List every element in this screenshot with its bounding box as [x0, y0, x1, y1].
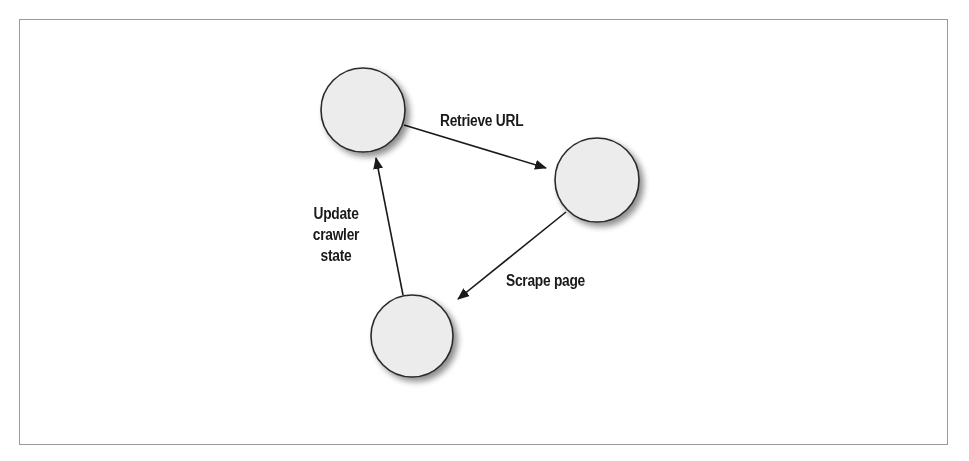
edge-update-state [376, 158, 403, 295]
edge-label-line: state [302, 245, 371, 266]
node-2 [555, 138, 639, 222]
diagram-canvas [0, 0, 969, 461]
edge-retrieve-url [404, 125, 546, 168]
edge-label-line: crawler [302, 224, 371, 245]
edge-label-scrape-page: Scrape page [506, 270, 585, 291]
node-3 [371, 295, 453, 377]
edge-label-retrieve-url: Retrieve URL [440, 110, 523, 131]
edge-label-line: Update [302, 203, 371, 224]
edge-label-update-state: Update crawler state [302, 203, 371, 266]
node-1 [321, 68, 405, 152]
